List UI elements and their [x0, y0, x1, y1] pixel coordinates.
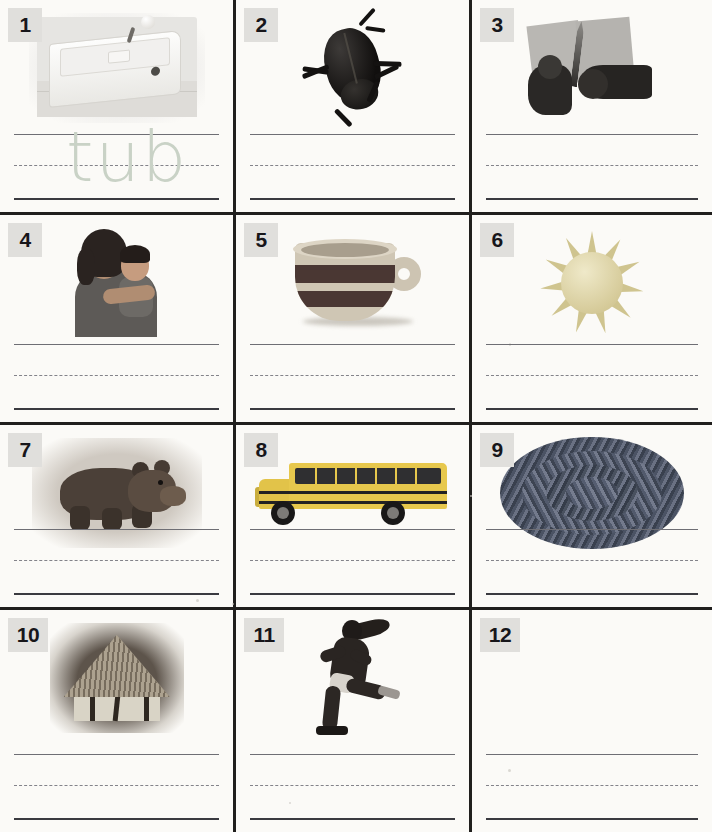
rule-line-top [250, 754, 455, 755]
worksheet-cell-8[interactable]: 8 [236, 425, 472, 610]
rule-line-top [14, 529, 219, 530]
cup-icon [283, 235, 423, 331]
writing-lines-10[interactable] [14, 754, 219, 822]
worksheet-cell-11[interactable]: 11 [236, 610, 472, 832]
worksheet-cell-5[interactable]: 5 [236, 215, 472, 425]
item-number-badge-6: 6 [480, 223, 514, 257]
rule-line-baseline [14, 818, 219, 820]
item-number-7: 7 [19, 438, 30, 462]
rule-line-top [486, 529, 698, 530]
rule-line-mid-dashed [14, 560, 219, 561]
worksheet-cell-12[interactable]: 12 [472, 610, 712, 832]
rule-line-baseline [486, 818, 698, 820]
rule-line-top [250, 529, 455, 530]
rule-line-top [14, 754, 219, 755]
mother-and-baby-icon [63, 227, 171, 339]
item-number-12: 12 [489, 623, 511, 647]
writing-lines-11[interactable] [250, 754, 455, 822]
item-number-5: 5 [255, 228, 266, 252]
rule-line-baseline [14, 593, 219, 595]
rule-line-top [250, 134, 455, 135]
worksheet-cell-10[interactable]: 10 [0, 610, 236, 832]
item-number-10: 10 [17, 623, 39, 647]
rule-line-baseline [250, 408, 455, 410]
rule-line-baseline [250, 198, 455, 200]
item-number-badge-8: 8 [244, 433, 278, 467]
rule-line-mid-dashed [486, 165, 698, 166]
item-number-3: 3 [491, 13, 502, 37]
rule-line-mid-dashed [250, 785, 455, 786]
item-number-badge-12: 12 [480, 618, 520, 652]
item-number-6: 6 [491, 228, 502, 252]
worksheet-grid: 1 [0, 0, 712, 832]
worksheet-cell-1[interactable]: 1 [0, 0, 236, 215]
item-number-badge-1: 1 [8, 8, 42, 42]
item-number-8: 8 [255, 438, 266, 462]
worksheet-cell-9[interactable]: 9 [472, 425, 712, 610]
hands-cutting-paper-icon [512, 13, 672, 123]
writing-lines-5[interactable] [250, 344, 455, 412]
handwritten-answer-1: tub [66, 122, 188, 192]
item-number-1: 1 [19, 13, 30, 37]
worksheet-cell-2[interactable]: 2 [236, 0, 472, 215]
rule-line-top [486, 754, 698, 755]
item-number-badge-7: 7 [8, 433, 42, 467]
writing-lines-9[interactable] [486, 529, 698, 597]
rule-line-mid-dashed [14, 375, 219, 376]
rule-line-top [486, 344, 698, 345]
item-number-badge-4: 4 [8, 223, 42, 257]
rule-line-mid-dashed [14, 785, 219, 786]
running-girl-icon [298, 616, 408, 740]
rule-line-top [486, 134, 698, 135]
rule-line-baseline [250, 593, 455, 595]
item-number-11: 11 [253, 623, 274, 647]
rule-line-baseline [486, 408, 698, 410]
scan-speck [196, 599, 199, 602]
rule-line-mid-dashed [250, 560, 455, 561]
rule-line-mid-dashed [486, 785, 698, 786]
item-number-badge-5: 5 [244, 223, 278, 257]
item-number-2: 2 [255, 13, 266, 37]
writing-lines-3[interactable] [486, 134, 698, 202]
writing-lines-12[interactable] [486, 754, 698, 822]
rule-line-baseline [14, 198, 219, 200]
item-number-4: 4 [19, 228, 30, 252]
thatched-hut-icon [50, 623, 184, 733]
worksheet-page: 1 [0, 0, 712, 832]
item-number-badge-3: 3 [480, 8, 514, 42]
worksheet-cell-6[interactable]: 6 [472, 215, 712, 425]
writing-lines-4[interactable] [14, 344, 219, 412]
rule-line-mid-dashed [486, 375, 698, 376]
writing-lines-8[interactable] [250, 529, 455, 597]
item-number-badge-2: 2 [244, 8, 278, 42]
bathtub-icon [29, 13, 205, 123]
worksheet-cell-7[interactable]: 7 [0, 425, 236, 610]
worksheet-cell-4[interactable]: 4 [0, 215, 236, 425]
writing-lines-2[interactable] [250, 134, 455, 202]
writing-lines-6[interactable] [486, 344, 698, 412]
item-number-badge-9: 9 [480, 433, 514, 467]
sun-icon [536, 227, 648, 339]
rule-line-mid-dashed [486, 560, 698, 561]
writing-lines-7[interactable] [14, 529, 219, 597]
rule-line-top [14, 344, 219, 345]
rule-line-baseline [250, 818, 455, 820]
rule-line-baseline [486, 198, 698, 200]
beetle-icon [287, 6, 418, 130]
item-number-9: 9 [491, 438, 502, 462]
rule-line-baseline [14, 408, 219, 410]
worksheet-cell-3[interactable]: 3 [472, 0, 712, 215]
writing-lines-1[interactable]: tub [14, 134, 219, 202]
item-number-badge-10: 10 [8, 618, 48, 652]
rule-line-top [250, 344, 455, 345]
rule-line-mid-dashed [250, 165, 455, 166]
scan-speck [232, 603, 234, 605]
item-number-badge-11: 11 [244, 618, 284, 652]
rule-line-baseline [486, 593, 698, 595]
school-bus-icon [253, 457, 453, 529]
rule-line-mid-dashed [250, 375, 455, 376]
